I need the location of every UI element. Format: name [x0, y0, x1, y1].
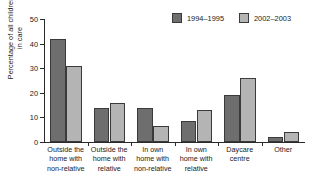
bar [224, 95, 240, 142]
bar [197, 110, 213, 142]
y-tick [40, 93, 45, 94]
legend: 1994–1995 2002–2003 [172, 13, 291, 23]
y-tick-label: 30 [30, 64, 38, 73]
bar [50, 39, 66, 142]
bar [240, 78, 256, 142]
y-tick [40, 19, 45, 20]
y-tick [40, 117, 45, 118]
y-axis-title: Percentage of all children in care [7, 0, 23, 97]
bar [137, 108, 153, 142]
bar [153, 126, 169, 142]
bar [284, 132, 300, 142]
x-axis-label: Other [258, 145, 310, 154]
bar [268, 137, 284, 142]
legend-item-series-1: 1994–1995 [172, 13, 224, 23]
y-tick-label: 10 [30, 113, 38, 122]
plot-area: 01020304050 Outside the home with non-re… [44, 19, 305, 142]
y-tick [40, 44, 45, 45]
legend-item-series-2: 2002–2003 [239, 13, 291, 23]
y-tick-label: 40 [30, 39, 38, 48]
y-tick-label: 50 [30, 15, 38, 24]
legend-swatch-icon [172, 13, 182, 23]
bar [110, 103, 126, 142]
bar [181, 121, 197, 142]
legend-swatch-icon [239, 13, 249, 23]
y-tick-label: 20 [30, 88, 38, 97]
bar [94, 108, 110, 142]
bar [66, 66, 82, 142]
y-tick [40, 68, 45, 69]
legend-label: 2002–2003 [254, 14, 291, 23]
y-tick-label: 0 [34, 138, 38, 147]
legend-label: 1994–1995 [187, 14, 224, 23]
bar-chart: Percentage of all children in care 01020… [0, 0, 312, 182]
y-axis-line [44, 19, 45, 142]
y-tick [40, 142, 45, 143]
